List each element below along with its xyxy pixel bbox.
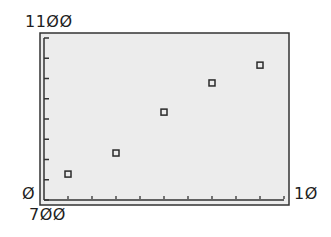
y-axis-max-label: 11ØØ [25,14,73,30]
scatter-plot [0,0,331,237]
x-axis-min-label: Ø [22,186,35,202]
y-axis-min-label: 7ØØ [29,207,66,223]
plot-area [40,33,289,205]
x-axis-max-label: 1Ø [294,186,318,202]
